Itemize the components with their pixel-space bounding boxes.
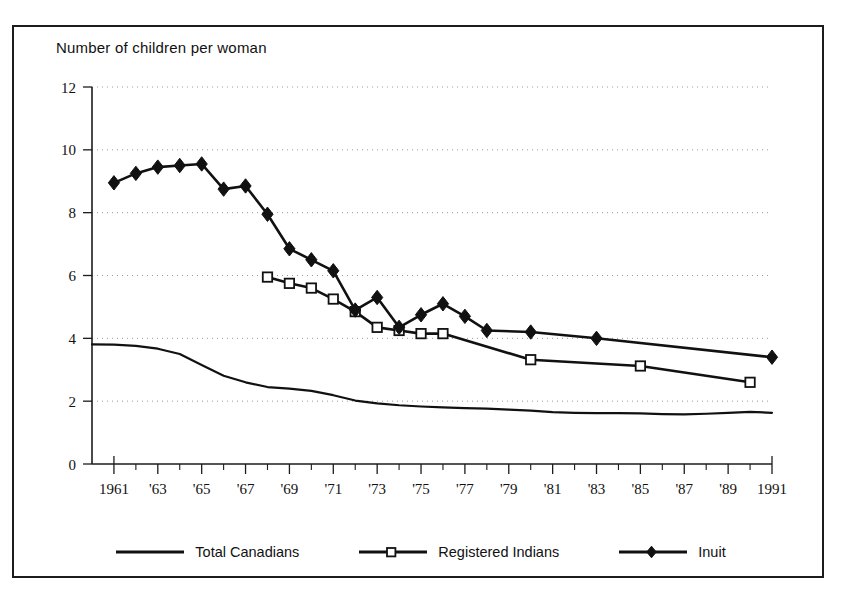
- data-point-marker: [459, 309, 470, 323]
- x-tick-label-1989: '89: [719, 481, 737, 497]
- series-line-1: [267, 277, 750, 382]
- legend-swatch-filled-diamond: [617, 545, 689, 559]
- data-point-marker: [481, 323, 492, 337]
- data-series: [92, 157, 778, 415]
- data-point-marker: [285, 279, 294, 288]
- x-tick-label-1987: '87: [675, 481, 693, 497]
- data-point-marker: [745, 378, 754, 387]
- data-point-marker: [591, 331, 602, 345]
- y-axis-tick-labels: 024681012: [61, 80, 77, 473]
- x-tick-label-1961: 1961: [99, 481, 129, 497]
- x-tick-label-1975: '75: [412, 481, 430, 497]
- x-axis-ticks: [114, 456, 772, 474]
- figure-frame: Number of children per woman 024681012 1…: [12, 25, 824, 578]
- data-point-marker: [415, 308, 426, 322]
- x-tick-label-1991: 1991: [757, 481, 787, 497]
- plot-area: 024681012 1961'63'65'67'69'71'73'75'77'7…: [14, 27, 826, 580]
- y-tick-label-4: 4: [69, 331, 77, 347]
- legend-swatch-line: [114, 545, 186, 559]
- x-tick-label-1971: '71: [324, 481, 342, 497]
- data-point-marker: [372, 323, 381, 332]
- y-axis-ticks: [83, 87, 92, 464]
- chart-legend: Total Canadians Registered Indians Inuit: [14, 544, 826, 560]
- x-tick-label-1973: '73: [368, 481, 386, 497]
- gridlines: [92, 87, 772, 401]
- data-point-marker: [416, 329, 425, 338]
- legend-item-total-canadians: Total Canadians: [114, 544, 299, 560]
- y-tick-label-6: 6: [69, 268, 77, 284]
- y-tick-label-12: 12: [61, 80, 76, 96]
- x-tick-label-1965: '65: [193, 481, 211, 497]
- data-point-marker: [174, 158, 185, 172]
- data-point-marker: [329, 294, 338, 303]
- legend-label-registered-indians: Registered Indians: [438, 544, 559, 560]
- data-point-marker: [525, 325, 536, 339]
- y-tick-label-10: 10: [61, 142, 76, 158]
- data-point-marker: [108, 176, 119, 190]
- data-point-marker: [526, 355, 535, 364]
- legend-label-total-canadians: Total Canadians: [195, 544, 299, 560]
- series-line-0: [92, 344, 772, 414]
- y-tick-label-0: 0: [69, 457, 77, 473]
- data-point-marker: [307, 283, 316, 292]
- data-point-marker: [438, 329, 447, 338]
- data-point-marker: [152, 160, 163, 174]
- x-tick-label-1977: '77: [456, 481, 474, 497]
- data-point-marker: [306, 253, 317, 267]
- x-tick-label-1981: '81: [544, 481, 562, 497]
- x-tick-label-1983: '83: [588, 481, 606, 497]
- legend-label-inuit: Inuit: [698, 544, 725, 560]
- line-chart-svg: 024681012 1961'63'65'67'69'71'73'75'77'7…: [14, 27, 826, 580]
- data-point-marker: [636, 361, 645, 370]
- x-tick-label-1963: '63: [149, 481, 167, 497]
- x-tick-label-1967: '67: [237, 481, 255, 497]
- x-axis-tick-labels: 1961'63'65'67'69'71'73'75'77'79'81'83'85…: [99, 481, 787, 497]
- legend-swatch-open-square: [357, 545, 429, 559]
- y-tick-label-8: 8: [69, 205, 77, 221]
- legend-item-inuit: Inuit: [617, 544, 725, 560]
- legend-item-registered-indians: Registered Indians: [357, 544, 559, 560]
- data-point-marker: [437, 297, 448, 311]
- data-point-marker: [263, 272, 272, 281]
- y-tick-label-2: 2: [69, 394, 77, 410]
- x-tick-label-1969: '69: [281, 481, 299, 497]
- data-point-marker: [766, 350, 777, 364]
- x-tick-label-1985: '85: [632, 481, 650, 497]
- data-point-marker: [130, 166, 141, 180]
- x-tick-label-1979: '79: [500, 481, 518, 497]
